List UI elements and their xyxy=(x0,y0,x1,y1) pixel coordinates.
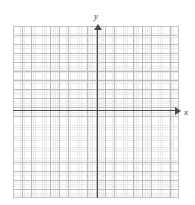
plot-area xyxy=(13,26,179,198)
x-axis-line xyxy=(13,110,177,111)
coordinate-grid-figure: x y xyxy=(0,0,195,205)
y-axis-label: y xyxy=(94,12,98,21)
clipped-header-text xyxy=(0,0,195,3)
x-axis-label: x xyxy=(184,108,188,117)
y-axis-line xyxy=(97,28,98,198)
x-axis-arrow-icon xyxy=(175,107,181,115)
y-axis-arrow-icon xyxy=(94,24,102,30)
grid-border xyxy=(13,26,179,198)
